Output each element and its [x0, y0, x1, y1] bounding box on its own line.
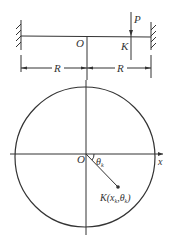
load-label: P — [133, 13, 141, 25]
point-k — [116, 185, 120, 189]
x-axis-label: x — [157, 156, 163, 167]
plate-origin-label: O — [77, 153, 85, 165]
left-wall-hatch — [16, 24, 21, 47]
circular-plate — [15, 87, 155, 227]
angle-arc — [92, 154, 94, 160]
dim-right-label: R — [116, 62, 124, 74]
radius-to-k — [86, 154, 118, 187]
angle-label: θk — [96, 156, 104, 168]
beam-k-label: K — [120, 40, 129, 52]
beam-and-plate-diagram: P O K R R O x θk K(xk,θk) — [0, 0, 176, 242]
dim-left-label: R — [53, 62, 61, 74]
right-wall-hatch — [151, 25, 156, 48]
load-arrowhead — [129, 30, 133, 36]
point-k-label: K(xk,θk) — [99, 192, 131, 204]
beam-origin-label: O — [76, 37, 84, 49]
